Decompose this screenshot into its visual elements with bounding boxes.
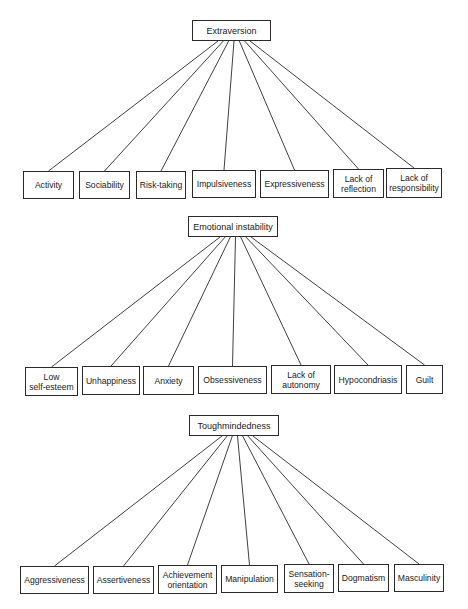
trait-box-dogmatism: Dogmatism	[338, 564, 389, 592]
trait-box-obsessiveness: Obsessiveness	[198, 366, 267, 394]
trait-label: Manipulation	[225, 574, 274, 584]
trait-label: Unhappiness	[86, 376, 136, 386]
trait-box-impulsiveness: Impulsiveness	[192, 170, 256, 198]
connector-lines	[0, 0, 468, 609]
connector-line	[161, 41, 229, 171]
trait-label: Impulsiveness	[197, 179, 251, 189]
trait-box-lack-of-responsibility: Lack of responsibility	[386, 168, 442, 198]
trait-box-achievement-orientation: Achievement orientation	[158, 565, 217, 594]
connector-line	[111, 237, 225, 366]
trait-box-assertiveness: Assertiveness	[93, 566, 154, 594]
connector-line	[253, 436, 419, 564]
trait-box-sociability: Sociability	[79, 171, 130, 199]
factor-label: Toughmindedness	[197, 421, 270, 431]
trait-label: Lack of autonomy	[282, 370, 320, 390]
connector-line	[169, 237, 231, 366]
trait-label: Activity	[35, 180, 62, 190]
trait-box-hypocondriasis: Hypocondriasis	[334, 365, 402, 394]
trait-label: Expressiveness	[264, 179, 324, 189]
trait-box-risk-taking: Risk-taking	[136, 171, 186, 199]
connector-line	[224, 41, 234, 170]
trait-label: Aggressiveness	[24, 575, 85, 585]
connector-line	[251, 237, 425, 365]
connector-line	[55, 436, 223, 566]
trait-label: Sociability	[85, 180, 124, 190]
connector-line	[250, 41, 414, 168]
trait-box-low-self-esteem: Low self-esteem	[25, 367, 78, 396]
trait-label: Low self-esteem	[29, 372, 73, 392]
factor-box-emotional-instability: Emotional instability	[188, 216, 278, 237]
trait-box-manipulation: Manipulation	[221, 565, 278, 593]
connector-line	[239, 41, 294, 170]
factor-label: Emotional instability	[193, 222, 273, 232]
trait-box-lack-of-reflection: Lack of reflection	[333, 169, 384, 198]
trait-box-masculinity: Masculinity	[394, 564, 444, 592]
trait-label: Hypocondriasis	[339, 375, 398, 385]
connector-line	[49, 41, 219, 171]
trait-box-expressiveness: Expressiveness	[260, 170, 329, 198]
connector-line	[188, 436, 233, 565]
trait-label: Risk-taking	[140, 180, 183, 190]
trait-box-aggressiveness: Aggressiveness	[20, 566, 89, 594]
connector-line	[105, 41, 224, 171]
connector-line	[233, 237, 236, 366]
trait-box-unhappiness: Unhappiness	[82, 366, 140, 395]
trait-box-anxiety: Anxiety	[143, 366, 194, 395]
connector-line	[238, 436, 250, 565]
trait-box-sensation-seeking: Sensation- seeking	[284, 564, 334, 593]
trait-label: Obsessiveness	[203, 375, 261, 385]
factor-box-extraversion: Extraversion	[192, 20, 271, 41]
connector-line	[248, 436, 364, 564]
trait-box-activity: Activity	[23, 171, 74, 199]
connector-line	[243, 436, 309, 564]
connector-line	[245, 41, 359, 169]
trait-label: Guilt	[416, 375, 434, 385]
trait-label: Assertiveness	[97, 575, 151, 585]
trait-label: Dogmatism	[342, 573, 385, 583]
factor-label: Extraversion	[206, 26, 256, 36]
connector-line	[246, 237, 368, 365]
trait-label: Lack of reflection	[341, 174, 376, 194]
connector-line	[52, 237, 221, 367]
connector-line	[124, 436, 228, 566]
trait-box-guilt: Guilt	[406, 365, 443, 394]
factor-box-toughmindedness: Toughmindedness	[189, 415, 279, 436]
trait-label: Lack of responsibility	[389, 173, 439, 193]
trait-box-lack-of-autonomy: Lack of autonomy	[271, 365, 331, 394]
trait-label: Sensation- seeking	[288, 569, 329, 589]
trait-label: Achievement orientation	[163, 570, 213, 590]
connector-line	[241, 237, 301, 365]
trait-label: Masculinity	[398, 573, 441, 583]
trait-label: Anxiety	[154, 376, 182, 386]
